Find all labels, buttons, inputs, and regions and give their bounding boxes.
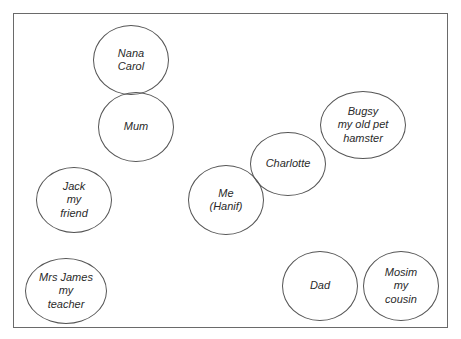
- node-label: Me (Hanif): [209, 187, 242, 214]
- node-jack: Jack my friend: [36, 167, 112, 233]
- node-label: Charlotte: [266, 157, 311, 171]
- node-label: Bugsy my old pet hamster: [338, 105, 389, 146]
- node-bugsy: Bugsy my old pet hamster: [320, 91, 406, 159]
- node-label: Mum: [124, 120, 148, 134]
- node-nana-carol: Nana Carol: [93, 25, 169, 95]
- node-label: Mosim my cousin: [385, 266, 417, 307]
- node-mrs-james: Mrs James my teacher: [25, 258, 107, 324]
- node-charlotte: Charlotte: [250, 132, 326, 196]
- node-label: Nana Carol: [118, 47, 144, 74]
- node-mum: Mum: [98, 92, 174, 162]
- node-dad: Dad: [282, 251, 358, 321]
- node-label: Jack my friend: [60, 180, 88, 221]
- node-label: Mrs James my teacher: [39, 271, 93, 312]
- node-mosim: Mosim my cousin: [363, 251, 439, 321]
- node-label: Dad: [310, 279, 330, 293]
